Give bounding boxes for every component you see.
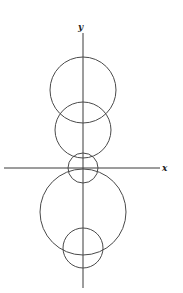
x-axis-label: x <box>161 163 168 173</box>
y-axis-label: y <box>77 22 84 32</box>
diagram-canvas: y x <box>0 0 183 293</box>
